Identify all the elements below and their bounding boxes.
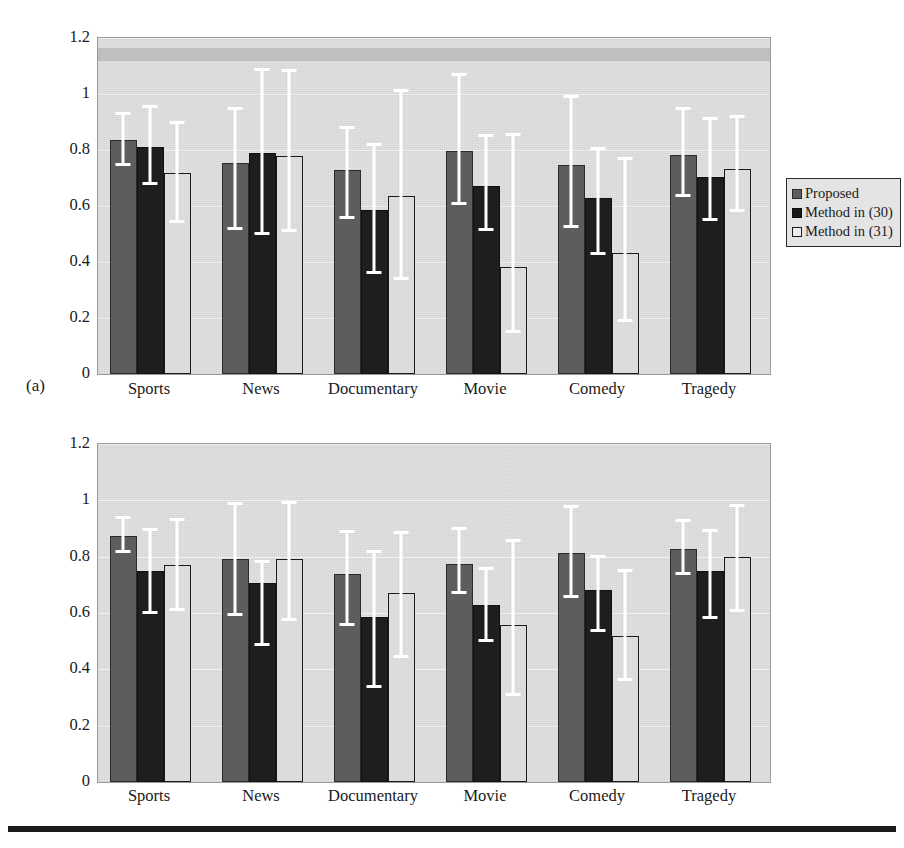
error-bar-cap-top xyxy=(394,531,409,534)
error-bar-cap-top xyxy=(506,539,521,542)
error-bar-cap-top xyxy=(479,134,494,137)
legend-swatch-icon xyxy=(792,227,802,237)
error-bar-cap-top xyxy=(228,107,243,110)
bar-movie-method-in-31- xyxy=(500,625,527,782)
error-bar-cap-top xyxy=(703,529,718,532)
y-tick-label: 0.4 xyxy=(50,253,90,270)
x-tick-label-documentary: Documentary xyxy=(328,379,418,399)
bar-sports-method-in-31- xyxy=(164,565,191,782)
bar-tragedy-method-in-30- xyxy=(697,571,724,782)
bar-documentary-method-in-31- xyxy=(388,196,415,374)
legend-label: Method in (31) xyxy=(805,222,893,241)
error-bar-cap-top xyxy=(506,133,521,136)
error-bar-cap-top xyxy=(340,530,355,533)
bar-comedy-method-in-31- xyxy=(612,636,639,782)
x-tick-label-tragedy: Tragedy xyxy=(682,786,736,806)
y-tick-label: 0 xyxy=(50,365,90,382)
error-bar-cap-top xyxy=(394,89,409,92)
error-bar-cap-top xyxy=(228,502,243,505)
chart-panel-a: Representative capability (a) 00.20.40.6… xyxy=(0,0,904,424)
error-bar-cap-top xyxy=(143,105,158,108)
y-tick-label: 0.8 xyxy=(50,141,90,158)
legend-swatch-icon xyxy=(792,189,802,199)
error-bar-cap-top xyxy=(170,518,185,521)
chart-panel-b: Representative capability (b) ProposedMe… xyxy=(0,424,904,814)
gridline xyxy=(98,500,770,501)
y-tick-label: 1 xyxy=(50,491,90,508)
bar-sports-method-in-30- xyxy=(137,147,164,374)
bar-news-method-in-31- xyxy=(276,559,303,782)
y-tick-label: 1.2 xyxy=(50,29,90,46)
bar-tragedy-proposed xyxy=(670,549,697,782)
bar-news-method-in-30- xyxy=(249,583,276,782)
bar-news-method-in-31- xyxy=(276,156,303,374)
bar-news-method-in-30- xyxy=(249,153,276,374)
x-tick-label-movie: Movie xyxy=(463,379,506,399)
legend-swatch-icon xyxy=(792,208,802,218)
y-tick-label: 0.8 xyxy=(50,547,90,564)
error-bar-cap-top xyxy=(116,112,131,115)
bar-sports-method-in-30- xyxy=(137,571,164,782)
bar-tragedy-method-in-31- xyxy=(724,169,751,374)
legend-item-proposed: Proposed xyxy=(792,184,893,203)
error-bar-cap-top xyxy=(479,567,494,570)
bar-movie-method-in-31- xyxy=(500,267,527,374)
bar-sports-proposed xyxy=(110,536,137,782)
y-tick-label: 0.4 xyxy=(50,660,90,677)
legend-a: ProposedMethod in (30)Method in (31) xyxy=(786,178,901,247)
gridline xyxy=(98,444,770,445)
bar-sports-proposed xyxy=(110,140,137,374)
y-axis-ticks-a: 00.20.40.60.811.2 xyxy=(44,37,90,373)
error-bar-cap-top xyxy=(452,73,467,76)
legend-label: Proposed xyxy=(805,184,859,203)
error-bar-cap-top xyxy=(452,527,467,530)
bar-documentary-proposed xyxy=(334,170,361,374)
error-bar-cap-top xyxy=(282,501,297,504)
x-tick-label-movie: Movie xyxy=(463,786,506,806)
bar-news-proposed xyxy=(222,559,249,782)
panel-tag-a: (a) xyxy=(26,376,45,396)
error-bar-cap-top xyxy=(340,126,355,129)
bar-comedy-method-in-30- xyxy=(585,198,612,374)
x-tick-label-comedy: Comedy xyxy=(569,786,625,806)
bar-documentary-method-in-30- xyxy=(361,617,388,782)
y-tick-label: 0.6 xyxy=(50,197,90,214)
bar-comedy-method-in-31- xyxy=(612,253,639,374)
error-bar-cap-top xyxy=(618,157,633,160)
error-bar-cap-top xyxy=(730,504,745,507)
x-tick-label-sports: Sports xyxy=(128,379,170,399)
error-bar-cap-top xyxy=(703,117,718,120)
legend-item-method-in-30-: Method in (30) xyxy=(792,203,893,222)
scan-band xyxy=(98,48,770,61)
bar-tragedy-proposed xyxy=(670,155,697,374)
bar-documentary-method-in-31- xyxy=(388,593,415,782)
error-bar-cap-top xyxy=(255,68,270,71)
error-bar-cap-top xyxy=(730,115,745,118)
x-tick-label-news: News xyxy=(242,379,280,399)
y-tick-label: 0.6 xyxy=(50,604,90,621)
bar-comedy-proposed xyxy=(558,553,585,782)
x-tick-label-tragedy: Tragedy xyxy=(682,379,736,399)
error-bar-cap-top xyxy=(367,550,382,553)
x-tick-label-documentary: Documentary xyxy=(328,786,418,806)
bar-movie-proposed xyxy=(446,564,473,782)
gridline xyxy=(98,150,770,151)
error-bar-cap-top xyxy=(676,107,691,110)
bar-movie-proposed xyxy=(446,151,473,374)
y-tick-label: 0.2 xyxy=(50,716,90,733)
y-tick-label: 0.2 xyxy=(50,309,90,326)
bar-movie-method-in-30- xyxy=(473,605,500,782)
bar-news-proposed xyxy=(222,163,249,374)
bar-movie-method-in-30- xyxy=(473,186,500,374)
error-bar-cap-top xyxy=(255,560,270,563)
gridline xyxy=(98,38,770,39)
legend-item-method-in-31-: Method in (31) xyxy=(792,222,893,241)
bottom-rule xyxy=(8,826,896,832)
legend-label: Method in (30) xyxy=(805,203,893,222)
bar-tragedy-method-in-30- xyxy=(697,177,724,374)
bar-documentary-proposed xyxy=(334,574,361,782)
error-bar-cap-top xyxy=(116,516,131,519)
y-tick-label: 1 xyxy=(50,85,90,102)
bar-documentary-method-in-30- xyxy=(361,210,388,374)
y-tick-label: 0 xyxy=(50,773,90,790)
